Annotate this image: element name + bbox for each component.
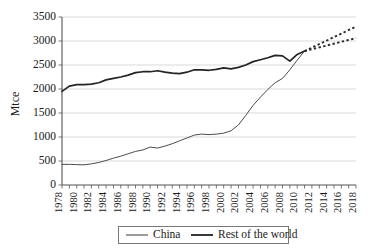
y-tick-label: 2000 — [33, 82, 56, 94]
x-tick-label: 2000 — [215, 192, 226, 213]
x-tick-label: 1998 — [200, 192, 211, 213]
x-tick-label: 1982 — [82, 192, 93, 213]
x-tick-label: 2006 — [259, 192, 270, 213]
x-tick-label: 2016 — [332, 192, 343, 213]
x-tick-label: 1984 — [97, 191, 108, 213]
x-tick-label: 2014 — [318, 191, 329, 213]
x-tick-label: 2004 — [244, 191, 255, 213]
x-tick-label: 1978 — [53, 192, 64, 213]
energy-consumption-line-chart: 0500100015002000250030003500 19781980198… — [0, 0, 372, 252]
x-tick-label: 2012 — [303, 192, 314, 213]
x-tick-label: 1988 — [127, 192, 138, 213]
chart-canvas: 0500100015002000250030003500 19781980198… — [0, 0, 372, 252]
x-axis-tick-labels: 1978198019821984198619881990199219941996… — [53, 191, 358, 213]
x-tick-label: 1994 — [171, 191, 182, 213]
x-tick-label: 1986 — [112, 192, 123, 213]
x-tick-label: 2008 — [274, 192, 285, 213]
x-tick-label: 2002 — [229, 192, 240, 213]
x-tick-label: 1996 — [185, 192, 196, 213]
x-tick-label: 2018 — [347, 192, 358, 213]
y-tick-label: 500 — [39, 154, 57, 166]
x-tick-label: 1992 — [156, 192, 167, 213]
legend-label-rest-of-the-world: Rest of the world — [218, 228, 298, 240]
x-tick-label: 2010 — [288, 192, 299, 213]
y-tick-label: 3000 — [33, 34, 56, 46]
legend-label-china: China — [153, 228, 180, 240]
y-tick-label: 0 — [50, 178, 56, 190]
x-tick-label: 1980 — [68, 192, 79, 213]
x-tick-label: 1990 — [141, 192, 152, 213]
y-tick-label: 1500 — [33, 106, 56, 118]
y-tick-label: 2500 — [33, 58, 56, 70]
y-tick-label: 1000 — [33, 130, 56, 142]
y-axis-title: Mtce — [8, 92, 22, 117]
y-tick-label: 3500 — [33, 10, 56, 22]
chart-legend: China Rest of the world — [119, 227, 298, 244]
